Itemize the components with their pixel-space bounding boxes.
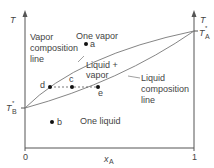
- region-two-phase-2: vapor: [86, 70, 109, 80]
- region-one-liquid: One liquid: [80, 116, 121, 126]
- label-b: b: [57, 117, 62, 127]
- label-a: a: [90, 39, 95, 49]
- vapor-line-leader: [78, 56, 84, 62]
- region-one-vapor: One vapor: [76, 31, 118, 41]
- liquid-line-leader: [128, 76, 140, 78]
- vapor-curve-label-1: Vapor: [30, 32, 53, 42]
- liquid-curve-label-2: composition: [141, 84, 189, 94]
- vapor-curve-label-2: composition: [30, 43, 78, 53]
- left-axis-label: T: [10, 15, 17, 25]
- phase-diagram: T T T A * T B * 0 1 x A One vapor a Vapo…: [0, 0, 214, 168]
- svg-text:*: *: [205, 25, 208, 31]
- svg-text:A: A: [205, 33, 210, 40]
- right-tick-label: T A *: [199, 25, 210, 40]
- label-e: e: [98, 88, 103, 98]
- svg-text:*: *: [12, 100, 15, 106]
- liquid-curve-label-1: Liquid: [141, 73, 165, 83]
- x-tick-label-0: 0: [23, 152, 28, 162]
- right-axis-label: T: [200, 15, 207, 25]
- x-axis-label: x A: [103, 154, 114, 165]
- label-c: c: [69, 74, 74, 84]
- left-tick-label: T B *: [6, 100, 17, 115]
- point-c: [70, 85, 74, 89]
- point-a: [84, 42, 88, 46]
- svg-text:B: B: [12, 108, 17, 115]
- point-d: [48, 85, 52, 89]
- point-b: [50, 120, 54, 124]
- region-two-phase-1: Liquid +: [86, 60, 118, 70]
- right-axis-arrow-icon: [192, 10, 197, 17]
- left-axis-arrow-icon: [23, 10, 28, 17]
- vapor-curve-label-3: line: [30, 54, 44, 64]
- svg-text:A: A: [109, 158, 114, 165]
- label-d: d: [40, 80, 45, 90]
- x-tick-label-1: 1: [192, 152, 197, 162]
- liquid-curve-label-3: line: [141, 95, 155, 105]
